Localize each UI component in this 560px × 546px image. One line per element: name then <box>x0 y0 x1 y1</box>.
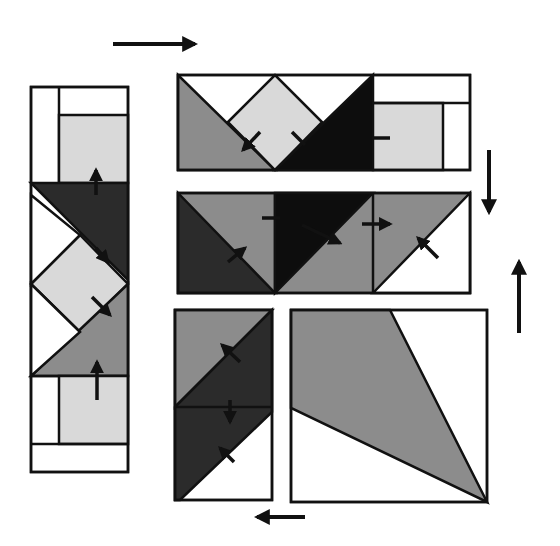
left-strip-bottom-light-rect <box>59 376 128 444</box>
left-strip-unit <box>31 87 128 472</box>
diagram-canvas <box>0 0 560 546</box>
quilt-assembly-diagram <box>0 0 560 546</box>
bottom-right-unit <box>291 310 487 502</box>
top-row-unit <box>178 75 470 170</box>
middle-row-unit <box>178 193 470 293</box>
left-strip-top-light-rect <box>59 115 128 183</box>
bottom-left-unit <box>175 310 272 500</box>
